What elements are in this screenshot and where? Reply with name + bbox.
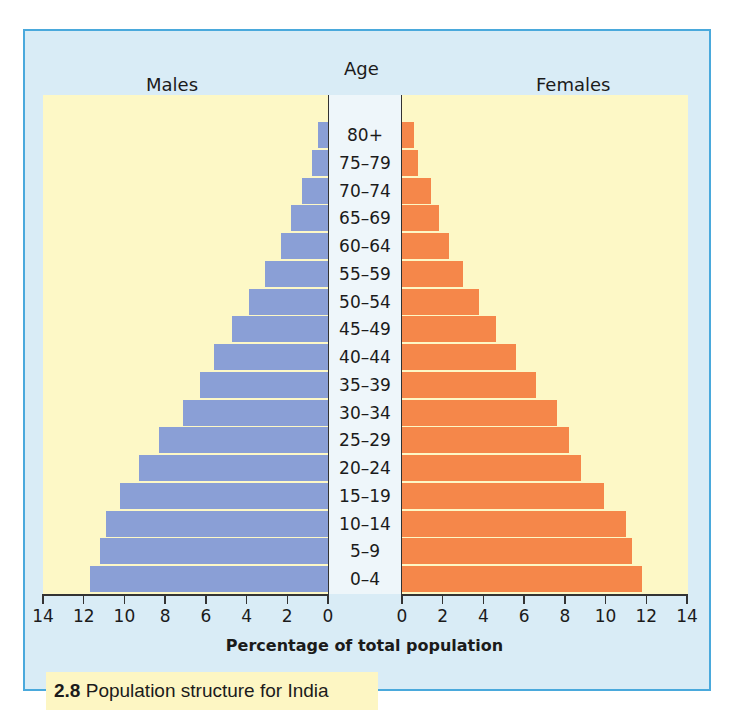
x-tick-label: 12: [69, 606, 99, 626]
male-bar-60–64: [281, 233, 328, 259]
female-bar-55–59: [402, 261, 463, 287]
age-group-label: 60–64: [328, 233, 402, 261]
age-group-label: 45–49: [328, 316, 402, 344]
female-bar-50–54: [402, 289, 479, 315]
x-tick: [564, 594, 566, 604]
age-group-label: 25–29: [328, 427, 402, 455]
female-bar-80+: [402, 122, 414, 148]
male-bar-75–79: [312, 150, 328, 176]
x-tick-label: 2: [272, 606, 302, 626]
x-tick-label: 2: [428, 606, 458, 626]
age-group-label: 55–59: [328, 261, 402, 289]
female-bar-20–24: [402, 455, 581, 481]
age-header: Age: [344, 58, 379, 79]
male-bar-80+: [318, 122, 328, 148]
x-tick: [246, 594, 248, 604]
age-group-label: 40–44: [328, 344, 402, 372]
female-bar-5–9: [402, 538, 632, 564]
x-tick: [327, 594, 329, 604]
male-bar-70–74: [302, 178, 328, 204]
x-tick: [646, 594, 648, 604]
age-group-label: 75–79: [328, 150, 402, 178]
male-bar-65–69: [291, 205, 328, 231]
x-tick-label: 14: [28, 606, 58, 626]
x-tick-label: 6: [509, 606, 539, 626]
male-bar-25–29: [159, 427, 328, 453]
male-bar-30–34: [183, 400, 328, 426]
x-tick-label: 10: [109, 606, 139, 626]
female-bar-65–69: [402, 205, 439, 231]
figure-number: 2.8: [54, 680, 80, 701]
x-axis-label: Percentage of total population: [0, 636, 729, 655]
female-bar-70–74: [402, 178, 431, 204]
male-bar-10–14: [106, 511, 328, 537]
x-tick-label: 14: [672, 606, 702, 626]
age-group-label: 65–69: [328, 205, 402, 233]
male-bar-45–49: [232, 316, 328, 342]
x-tick: [523, 594, 525, 604]
female-bar-0–4: [402, 566, 642, 592]
female-bar-40–44: [402, 344, 516, 370]
x-tick-label: 4: [468, 606, 498, 626]
male-bar-50–54: [249, 289, 328, 315]
x-tick: [42, 594, 44, 604]
x-tick: [287, 594, 289, 604]
female-bar-75–79: [402, 150, 418, 176]
female-bar-60–64: [402, 233, 449, 259]
male-bar-0–4: [90, 566, 328, 592]
male-bar-5–9: [100, 538, 328, 564]
figure-caption: 2.8 Population structure for India: [46, 672, 378, 710]
female-bar-35–39: [402, 372, 536, 398]
x-tick: [442, 594, 444, 604]
female-bar-15–19: [402, 483, 604, 509]
x-tick: [686, 594, 688, 604]
age-group-label: 20–24: [328, 455, 402, 483]
female-bar-45–49: [402, 316, 496, 342]
age-group-label: 10–14: [328, 511, 402, 539]
age-group-label: 5–9: [328, 538, 402, 566]
age-group-label: 30–34: [328, 400, 402, 428]
male-bar-55–59: [265, 261, 328, 287]
x-tick-label: 8: [550, 606, 580, 626]
x-tick: [83, 594, 85, 604]
x-tick-label: 0: [313, 606, 343, 626]
age-group-label: 50–54: [328, 289, 402, 317]
age-group-label: 0–4: [328, 566, 402, 594]
female-bar-25–29: [402, 427, 569, 453]
figure-caption-text: Population structure for India: [86, 680, 329, 701]
x-tick: [605, 594, 607, 604]
age-group-label: 80+: [328, 122, 402, 150]
male-bar-20–24: [139, 455, 328, 481]
female-bar-30–34: [402, 400, 557, 426]
females-header: Females: [536, 74, 610, 95]
female-bar-10–14: [402, 511, 626, 537]
x-tick: [164, 594, 166, 604]
x-tick-label: 12: [631, 606, 661, 626]
age-group-label: 70–74: [328, 178, 402, 206]
age-group-label: 35–39: [328, 372, 402, 400]
male-bar-40–44: [214, 344, 328, 370]
x-tick: [124, 594, 126, 604]
x-tick: [401, 594, 403, 604]
x-tick-label: 4: [232, 606, 262, 626]
x-tick-label: 8: [150, 606, 180, 626]
males-header: Males: [146, 74, 198, 95]
x-tick: [205, 594, 207, 604]
male-bar-35–39: [200, 372, 328, 398]
x-tick-label: 6: [191, 606, 221, 626]
x-tick-label: 10: [591, 606, 621, 626]
x-tick-label: 0: [387, 606, 417, 626]
age-group-label: 15–19: [328, 483, 402, 511]
male-bar-15–19: [120, 483, 328, 509]
x-tick: [483, 594, 485, 604]
